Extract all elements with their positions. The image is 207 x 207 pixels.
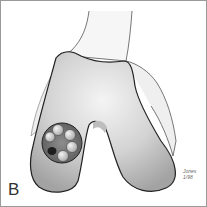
plug-5 <box>45 132 55 142</box>
plug-2 <box>65 130 76 141</box>
femur-condyles <box>31 52 176 192</box>
figure-frame: B Jones 1/98 <box>0 0 207 207</box>
panel-label: B <box>8 181 19 198</box>
femur-illustration <box>1 1 207 207</box>
plug-3 <box>67 142 78 153</box>
artist-signature: Jones 1/98 <box>183 169 196 180</box>
osteochondral-defect <box>42 123 82 163</box>
plug-4 <box>58 151 69 162</box>
